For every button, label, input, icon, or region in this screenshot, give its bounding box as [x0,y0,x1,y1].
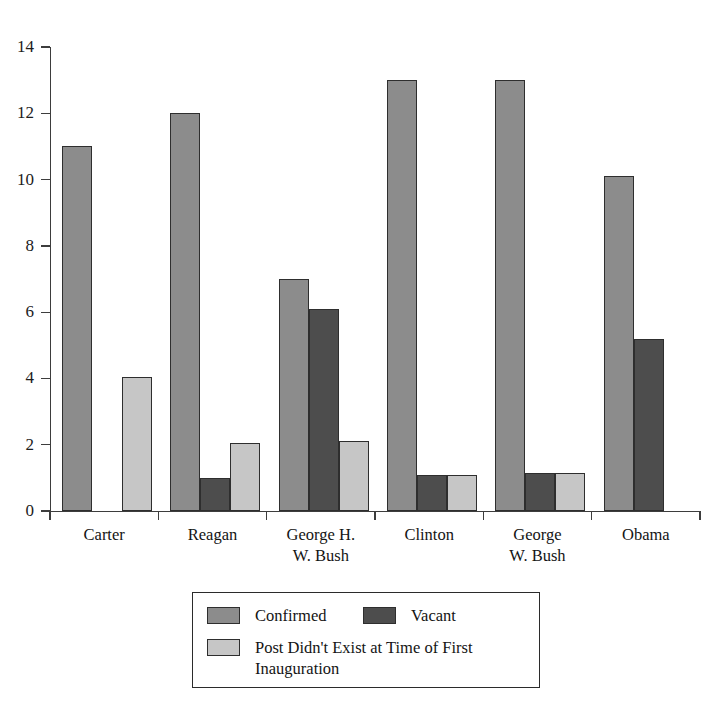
legend-swatch-post-didnt-exist [207,639,240,656]
bar [525,473,555,511]
y-axis-tick [41,312,50,313]
y-axis-tick [41,444,50,445]
y-axis-tick [41,245,50,246]
x-axis-tick [374,511,375,520]
bar [387,80,417,511]
legend-swatch-confirmed [207,607,240,624]
y-axis-tick-label: 6 [0,303,34,320]
bar [604,176,634,511]
y-axis-tick-label: 14 [0,38,34,55]
y-axis-tick [41,113,50,114]
legend-entry-post-didnt-exist: Post Didn't Exist at Time of First Inaug… [207,637,473,679]
x-axis-group-label: Obama [592,524,700,545]
bar [170,113,200,511]
bar [122,377,152,511]
y-axis-tick [41,378,50,379]
legend-swatch-vacant [363,607,396,624]
bar [417,475,447,511]
bar [62,146,92,511]
x-axis-tick [699,511,700,520]
x-axis-group-label: Carter [50,524,158,545]
x-axis-group-label: Clinton [375,524,483,545]
bar [634,339,664,511]
bar [230,443,260,511]
y-axis-tick-label: 10 [0,171,34,188]
legend-entry-vacant: Vacant [363,605,456,626]
y-axis-tick-label: 8 [0,237,34,254]
y-axis-tick-label: 4 [0,369,34,386]
legend-label-post-didnt-exist: Post Didn't Exist at Time of First Inaug… [255,637,473,679]
bar [555,473,585,511]
bar-chart: 02468101214 CarterReaganGeorge H. W. Bus… [0,0,721,704]
x-axis-group-label: Reagan [158,524,266,545]
bar [339,441,369,511]
y-axis-tick-label: 12 [0,104,34,121]
y-axis-tick-label: 2 [0,436,34,453]
bar [447,475,477,511]
bar [495,80,525,511]
x-axis-group-label: George H. W. Bush [267,524,375,566]
y-axis-tick [41,179,50,180]
bar [200,478,230,511]
x-axis-tick [591,511,592,520]
x-axis-tick [266,511,267,520]
bar [309,309,339,511]
x-axis-group-label: George W. Bush [483,524,591,566]
bar [279,279,309,511]
legend-label-confirmed: Confirmed [255,605,327,626]
legend-entry-confirmed: Confirmed [207,605,327,626]
legend: Confirmed Vacant Post Didn't Exist at Ti… [192,592,540,688]
plot-area [50,47,700,511]
y-axis-tick [41,46,50,47]
x-axis-tick [158,511,159,520]
y-axis-tick-label: 0 [0,502,34,519]
legend-label-vacant: Vacant [411,605,456,626]
x-axis-tick [483,511,484,520]
x-axis-tick [49,511,50,520]
